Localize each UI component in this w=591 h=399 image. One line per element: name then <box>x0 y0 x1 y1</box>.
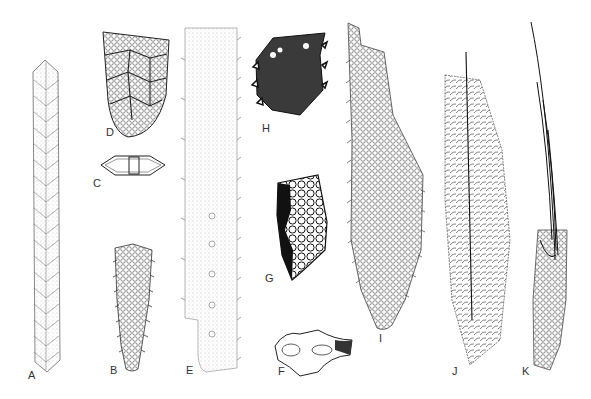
panel-label-c: C <box>93 178 101 189</box>
panel-i-drawing <box>346 23 425 329</box>
panel-label-g: G <box>265 273 274 284</box>
panel-h-drawing <box>252 33 327 115</box>
panel-label-b: B <box>110 365 117 376</box>
illustration-plate: A B C D E F G H I J K <box>0 0 591 399</box>
panel-d-drawing <box>103 32 169 137</box>
panel-label-e: E <box>186 365 193 376</box>
panel-label-i: I <box>379 333 382 344</box>
panel-c-drawing <box>101 156 165 175</box>
panel-label-a: A <box>28 370 35 381</box>
panel-b-drawing <box>113 244 155 371</box>
panel-label-f: F <box>278 366 285 377</box>
panel-e-drawing <box>181 28 241 372</box>
panel-label-k: K <box>522 366 529 377</box>
panel-k-drawing <box>531 22 567 370</box>
panel-a-drawing <box>33 60 60 372</box>
panel-label-h: H <box>262 123 270 134</box>
plate-drawings <box>0 0 591 399</box>
panel-g-drawing <box>277 175 327 280</box>
panel-j-drawing <box>445 52 510 365</box>
panel-label-j: J <box>452 366 458 377</box>
panel-label-d: D <box>106 127 114 138</box>
panel-f-drawing <box>275 330 352 376</box>
